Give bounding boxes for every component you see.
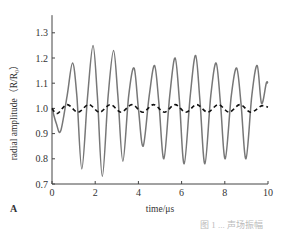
y-tick-label: 0.7 bbox=[36, 179, 49, 190]
y-tick-label: 1.3 bbox=[36, 27, 49, 38]
figure-caption: 图 1 ... 声场振幅 bbox=[200, 218, 263, 231]
series-group bbox=[52, 45, 268, 176]
panel-label: A bbox=[10, 203, 17, 214]
y-tick-label: 1.0 bbox=[36, 103, 49, 114]
x-tick-label: 10 bbox=[263, 187, 273, 198]
x-tick-label: 4 bbox=[136, 187, 141, 198]
line-chart: 0.70.80.91.01.11.21.30246810 time/μs rad… bbox=[0, 0, 290, 232]
y-tick-label: 0.8 bbox=[36, 153, 49, 164]
x-axis-title: time/μs bbox=[146, 204, 175, 214]
y-axis-title: radial amplitude（R/R₀） bbox=[8, 60, 19, 161]
y-tick-label: 0.9 bbox=[36, 128, 49, 139]
x-tick-label: 8 bbox=[222, 187, 227, 198]
x-tick-label: 6 bbox=[179, 187, 184, 198]
x-tick-label: 2 bbox=[93, 187, 98, 198]
x-tick-label: 0 bbox=[50, 187, 55, 198]
y-tick-label: 1.2 bbox=[36, 53, 49, 64]
y-tick-label: 1.1 bbox=[36, 78, 49, 89]
solid-series-line bbox=[52, 45, 268, 176]
